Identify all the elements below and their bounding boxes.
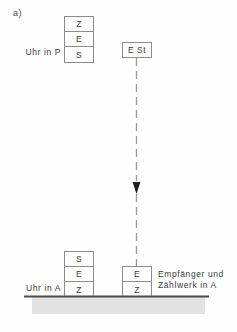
clock-p-cell-z: Z xyxy=(65,17,93,32)
clock-a-stack: S E Z xyxy=(64,251,94,298)
clock-a-cell-z: Z xyxy=(65,282,93,297)
receiver-a-stack: E Z xyxy=(122,266,152,298)
panel-label: a) xyxy=(13,8,22,19)
clock-p-cell-e: E xyxy=(65,32,93,47)
ground-fill xyxy=(32,297,205,314)
clock-a-label: Uhr in A xyxy=(0,283,61,294)
clock-p-stack: Z E S xyxy=(64,16,94,63)
clock-p-cell-s: S xyxy=(65,47,93,62)
receiver-a-label-line1: Empfänger und xyxy=(158,269,224,279)
clock-a-cell-e: E xyxy=(65,267,93,282)
figure-panel: a) Z E S Uhr in P E St S E Z Uhr in A E … xyxy=(0,0,237,332)
signal-direction-arrow-icon xyxy=(133,182,141,194)
receiver-a-cell-e: E xyxy=(123,267,151,282)
receiver-a-label: Empfänger undZählwerk in A xyxy=(158,269,224,291)
receiver-a-cell-z: Z xyxy=(123,282,151,297)
receiver-a-label-line2: Zählwerk in A xyxy=(158,280,217,290)
signal-emitter-box: E St xyxy=(122,42,152,58)
clock-a-cell-s: S xyxy=(65,252,93,267)
clock-p-label: Uhr in P xyxy=(0,47,61,58)
